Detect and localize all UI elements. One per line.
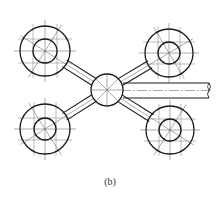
figure-caption: (b) — [0, 176, 220, 187]
mechanical-drawing — [0, 0, 220, 176]
arm-edge — [67, 60, 98, 79]
arm-edge — [117, 61, 148, 80]
arm-edge — [67, 101, 98, 120]
pipe-break-end — [208, 83, 210, 91]
arm-edge — [117, 101, 150, 122]
arm-edge — [62, 94, 93, 113]
arm-edge — [121, 94, 154, 115]
arm-edge — [62, 67, 93, 86]
